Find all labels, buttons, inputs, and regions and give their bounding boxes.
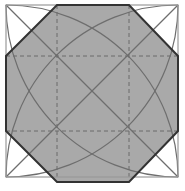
octagon-construction-diagram <box>0 0 185 191</box>
